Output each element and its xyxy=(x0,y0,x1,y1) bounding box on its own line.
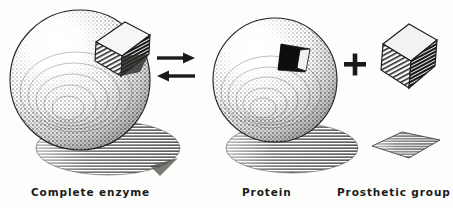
reversible-reaction-arrows xyxy=(157,53,195,82)
arrow-forward-icon xyxy=(157,53,195,64)
protein-group xyxy=(213,18,358,173)
enzyme-dissociation-figure: Complete enzyme Protein Prosthetic group xyxy=(0,0,453,208)
protein-cavity xyxy=(278,44,310,72)
label-complete-enzyme: Complete enzyme xyxy=(31,186,150,198)
label-protein: Protein xyxy=(242,186,292,198)
prosthetic-group-group xyxy=(372,24,440,158)
arrow-reverse-icon xyxy=(157,71,195,82)
free-prosthetic-block xyxy=(381,24,437,88)
protein-sphere xyxy=(213,18,337,142)
illustration-canvas xyxy=(0,0,453,208)
complete-enzyme-group xyxy=(10,10,180,176)
label-prosthetic-group: Prosthetic group xyxy=(337,186,451,198)
plus-icon xyxy=(344,54,366,76)
block-shadow xyxy=(372,132,440,158)
